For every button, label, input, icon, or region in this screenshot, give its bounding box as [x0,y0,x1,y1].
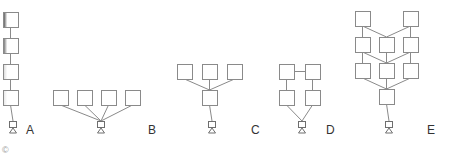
connection-line [387,26,411,37]
node-box [4,65,19,80]
node-box [178,65,193,80]
panel-label-c: C [251,124,260,136]
sink-icon [386,122,393,134]
node-box [356,12,371,27]
node-box [356,38,371,53]
node-box [380,64,395,79]
node-box [404,64,419,79]
connection-line [363,26,387,37]
connection-line [210,79,235,90]
node-box [102,91,117,106]
panel-label-e: E [427,124,435,136]
panel-label-d: D [326,124,335,136]
sink-line [287,105,303,121]
sink-icon [10,122,17,134]
node-box [203,65,218,80]
node-box [54,91,69,106]
node-box [126,91,141,106]
node-box [404,38,419,53]
node-box [203,91,218,106]
node-box [404,12,419,27]
node-box [356,64,371,79]
copyright-symbol: © [2,146,9,155]
topology-diagram [0,0,451,162]
sink-line [210,105,213,121]
node-box [280,91,295,106]
panel-b [61,105,133,121]
node-box [280,65,295,80]
node-box [4,39,19,54]
node-box [78,91,93,106]
node-box [306,65,321,80]
sink-line [11,105,14,121]
connection-line [363,78,387,89]
node-box [4,13,19,28]
panel-label-a: A [26,124,34,136]
node-boxes [4,12,419,106]
sink-line [61,105,102,121]
connection-line [185,79,210,90]
panel-label-b: B [148,124,156,136]
connection-line [387,52,411,63]
node-box [380,90,395,105]
node-box [228,65,243,80]
sink-line [387,104,390,121]
sink-icon [299,122,306,134]
connection-line [363,52,387,63]
node-box [306,91,321,106]
sink-icon [209,122,216,134]
sink-icon [98,122,105,134]
sink-symbols [10,122,393,134]
sink-line [302,105,313,121]
node-box [380,38,395,53]
sink-line [101,105,133,121]
node-box [4,91,19,106]
sink-line [85,105,102,121]
connection-line [387,78,411,89]
